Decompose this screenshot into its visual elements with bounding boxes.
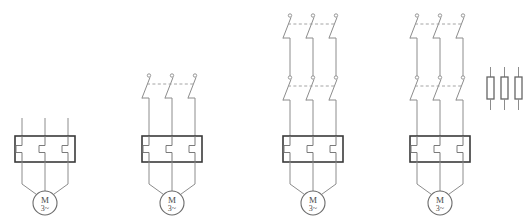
schematic-canvas: M3~M3~M3~M3~ (0, 0, 525, 221)
switch-blade[interactable] (410, 79, 418, 100)
contact-terminal-dot (438, 14, 441, 17)
motor-label-m: M (436, 195, 444, 205)
motor-label-phase: 3~ (436, 204, 445, 213)
contact-terminal-dot (461, 76, 464, 79)
motor-lead-converge (417, 184, 431, 194)
fuse[interactable] (487, 77, 494, 99)
motor-label-phase: 3~ (168, 204, 177, 213)
contact-terminal-dot (288, 14, 291, 17)
motor-lead-converge (181, 184, 195, 194)
contact-terminal-dot (334, 76, 337, 79)
switch-blade[interactable] (188, 77, 196, 98)
switch-blade[interactable] (283, 79, 291, 100)
contact-terminal-dot (438, 76, 441, 79)
motor-lead-converge (54, 184, 68, 194)
circuit-group-4: M3~ (410, 14, 522, 215)
contact-terminal-dot (147, 74, 150, 77)
switch-blade[interactable] (142, 77, 150, 98)
switch-blade[interactable] (410, 17, 418, 38)
circuit-group-3: M3~ (283, 14, 343, 215)
motor-label-m: M (309, 195, 317, 205)
motor-lead-converge (322, 184, 336, 194)
motor-label-m: M (41, 195, 49, 205)
contact-terminal-dot (311, 76, 314, 79)
contact-terminal-dot (415, 76, 418, 79)
switch-blade[interactable] (306, 17, 314, 38)
contact-terminal-dot (170, 74, 173, 77)
switch-blade[interactable] (433, 79, 441, 100)
circuit-group-1: M3~ (15, 118, 75, 215)
fuse[interactable] (501, 77, 508, 99)
switch-blade[interactable] (306, 79, 314, 100)
switch-blade[interactable] (456, 17, 464, 38)
motor-label-phase: 3~ (309, 204, 318, 213)
switch-blade[interactable] (433, 17, 441, 38)
switch-blade[interactable] (329, 17, 337, 38)
motor-label-phase: 3~ (41, 204, 50, 213)
motor-lead-converge (449, 184, 463, 194)
motor-label-m: M (168, 195, 176, 205)
switch-blade[interactable] (165, 77, 173, 98)
contact-terminal-dot (288, 76, 291, 79)
switch-blade[interactable] (283, 17, 291, 38)
switch-blade[interactable] (329, 79, 337, 100)
switch-blade[interactable] (456, 79, 464, 100)
contact-terminal-dot (415, 14, 418, 17)
motor-lead-converge (22, 184, 36, 194)
motor-lead-converge (149, 184, 163, 194)
contact-terminal-dot (311, 14, 314, 17)
circuit-group-2: M3~ (142, 74, 202, 215)
motor-lead-converge (290, 184, 304, 194)
contact-terminal-dot (193, 74, 196, 77)
contact-terminal-dot (334, 14, 337, 17)
contact-terminal-dot (461, 14, 464, 17)
schematic-diagram: M3~M3~M3~M3~ (0, 0, 525, 221)
fuse[interactable] (515, 77, 522, 99)
